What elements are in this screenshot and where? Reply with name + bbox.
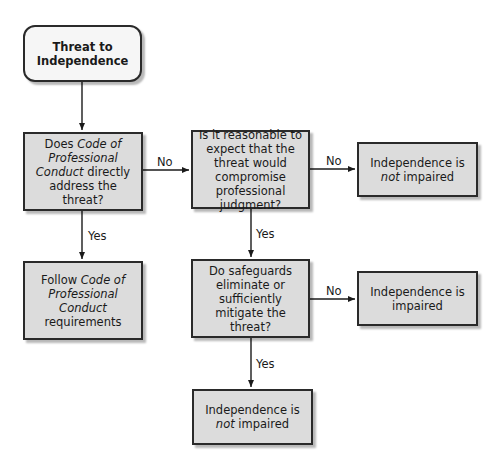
node-result-not-impaired-bottom: Independence is not impaired xyxy=(192,389,313,445)
result-follow-code-text: Follow Code of Professional Conduct requ… xyxy=(29,273,137,329)
question-reasonable-text: Is it reasonable to expect that the thre… xyxy=(197,128,304,212)
result-not-impaired-bottom-text: Independence is not impaired xyxy=(198,403,307,431)
edge-label-safeguards-no: No xyxy=(326,284,342,298)
node-question-reasonable-compromise: Is it reasonable to expect that the thre… xyxy=(191,130,310,209)
result-not-impaired-top-text: Independence is not impaired xyxy=(363,156,472,184)
question-code-text: Does Code ofProfessional Conduct directl… xyxy=(29,137,137,207)
edge-label-safeguards-yes: Yes xyxy=(256,357,275,371)
node-threat-to-independence: Threat to Independence xyxy=(23,25,142,82)
node-result-impaired: Independence is impaired xyxy=(357,271,478,326)
edge-label-reasonable-no: No xyxy=(326,154,342,168)
edge-label-reasonable-yes: Yes xyxy=(256,227,275,241)
question-safeguards-text: Do safeguards eliminate or sufficiently … xyxy=(197,264,304,334)
node-question-code-addresses-threat: Does Code ofProfessional Conduct directl… xyxy=(23,132,143,211)
start-line1: Threat to xyxy=(52,40,112,54)
start-line2: Independence xyxy=(37,54,129,68)
node-result-follow-code: Follow Code of Professional Conduct requ… xyxy=(23,261,143,340)
result-impaired-text: Independence is impaired xyxy=(363,285,472,313)
edge-label-code-no: No xyxy=(157,155,173,169)
edge-label-code-yes: Yes xyxy=(88,229,107,243)
node-result-not-impaired-top: Independence is not impaired xyxy=(357,142,478,197)
node-question-safeguards: Do safeguards eliminate or sufficiently … xyxy=(191,259,310,338)
